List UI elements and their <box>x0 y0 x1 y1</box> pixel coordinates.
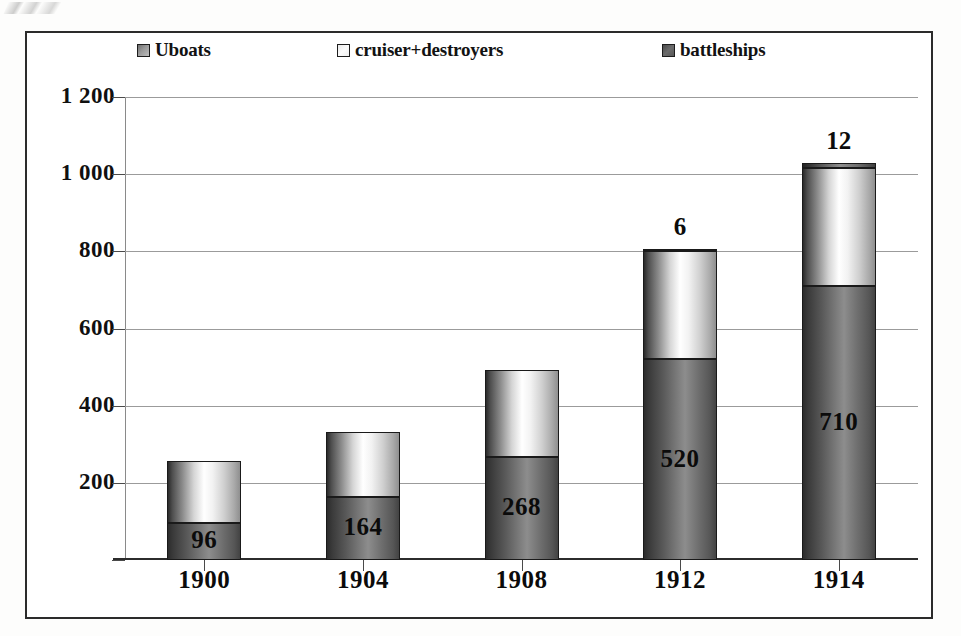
chart-frame: Uboats cruiser+destroyers battleships 20… <box>25 31 933 619</box>
y-axis-tick-label: 400 <box>79 392 115 418</box>
x-axis-tick-label: 1908 <box>442 566 602 594</box>
bar-group[interactable]: 268 <box>485 97 559 560</box>
bar-value-label: 164 <box>327 513 399 541</box>
bar-outside-value-label: 6 <box>643 213 717 241</box>
bar-segment-Uboats[interactable] <box>802 163 876 168</box>
bar-group[interactable]: 5206 <box>643 97 717 560</box>
y-axis-tick <box>112 483 125 484</box>
bar-value-label: 520 <box>644 445 716 473</box>
y-axis-tick <box>112 174 125 175</box>
bar-segment-cruiser-destroyers[interactable] <box>167 461 241 523</box>
bar-group[interactable]: 164 <box>326 97 400 560</box>
legend-label-cruiser-destroyers: cruiser+destroyers <box>355 39 503 61</box>
uboats-swatch-icon <box>137 44 150 57</box>
legend-item-battleships[interactable]: battleships <box>662 39 765 61</box>
y-axis-tick-label: 800 <box>79 238 115 264</box>
y-axis-tick-label: 1 000 <box>61 161 115 187</box>
x-axis-tick-label: 1914 <box>759 566 919 594</box>
y-axis-tick-label: 200 <box>79 469 115 495</box>
chart-legend: Uboats cruiser+destroyers battleships <box>27 39 931 69</box>
y-axis-tick-zero <box>112 560 125 561</box>
bar-value-label: 710 <box>803 408 875 436</box>
legend-item-cruiser-destroyers[interactable]: cruiser+destroyers <box>337 39 503 61</box>
bar-segment-cruiser-destroyers[interactable] <box>326 432 400 497</box>
cruiser-swatch-icon <box>337 44 350 57</box>
legend-label-battleships: battleships <box>680 39 765 61</box>
x-axis-labels: 19001904190819121914 <box>125 566 918 606</box>
bar-segment-cruiser-destroyers[interactable] <box>802 168 876 286</box>
legend-item-uboats[interactable]: Uboats <box>137 39 211 61</box>
x-axis-tick-label: 1912 <box>600 566 760 594</box>
y-axis-tick <box>112 329 125 330</box>
bar-segment-battleships[interactable]: 710 <box>802 286 876 560</box>
x-axis-tick-label: 1904 <box>283 566 443 594</box>
bar-segment-battleships[interactable]: 268 <box>485 457 559 560</box>
y-axis-labels: 2004006008001 0001 200 <box>27 97 115 560</box>
y-axis-tick <box>112 251 125 252</box>
bar-segment-battleships[interactable]: 520 <box>643 359 717 560</box>
y-axis-tick <box>112 97 125 98</box>
x-axis-tick-label: 1900 <box>124 566 284 594</box>
bar-value-label: 268 <box>486 493 558 521</box>
y-axis-tick-label: 1 200 <box>61 83 115 109</box>
bar-segment-cruiser-destroyers[interactable] <box>485 370 559 456</box>
legend-label-uboats: Uboats <box>155 39 211 61</box>
bar-value-label: 96 <box>168 526 240 554</box>
bar-segment-Uboats[interactable] <box>643 249 717 251</box>
bar-group[interactable]: 71012 <box>802 97 876 560</box>
y-axis-tick <box>112 406 125 407</box>
bar-outside-value-label: 12 <box>802 127 876 155</box>
bar-segment-battleships[interactable]: 164 <box>326 497 400 560</box>
scan-artifact <box>4 2 69 14</box>
bar-segment-cruiser-destroyers[interactable] <box>643 251 717 359</box>
y-axis-tick-label: 600 <box>79 315 115 341</box>
bar-group[interactable]: 96 <box>167 97 241 560</box>
bar-segment-battleships[interactable]: 96 <box>167 523 241 560</box>
battleships-swatch-icon <box>662 44 675 57</box>
plot-area: 96164268520671012 <box>125 97 918 560</box>
